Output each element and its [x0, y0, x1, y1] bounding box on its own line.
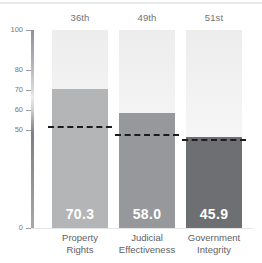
category-label-property-rights-line2: Rights: [43, 244, 117, 256]
y-tick-0: 0: [0, 223, 31, 233]
category-label-judicial-effectiveness: Judicial Effectiveness: [110, 232, 184, 255]
bar-value-property-rights: 70.3: [52, 206, 108, 222]
category-label-judicial-effectiveness-line2: Effectiveness: [110, 244, 184, 256]
average-line-government-integrity: [182, 139, 246, 141]
bar-value-judicial-effectiveness: 58.0: [119, 206, 175, 222]
y-tick-label-70: 70: [15, 85, 23, 95]
bar-government-integrity[interactable]: 45.9: [186, 137, 242, 228]
y-tick-70: 70: [0, 85, 31, 95]
y-tick-mark-0: [26, 228, 31, 229]
bar-judicial-effectiveness[interactable]: 58.0: [119, 113, 175, 228]
category-label-government-integrity: Government Integrity: [177, 232, 251, 255]
y-tick-60: 60: [0, 105, 31, 115]
category-label-judicial-effectiveness-line1: Judicial: [110, 232, 184, 244]
bar-property-rights[interactable]: 70.3: [52, 89, 108, 228]
category-label-property-rights: Property Rights: [43, 232, 117, 255]
y-tick-label-0: 0: [19, 223, 23, 233]
y-tick-label-100: 100: [10, 25, 23, 35]
y-tick-mark-60: [26, 110, 31, 111]
plot-area: 70.3 58.0 45.9 100 80 70 60: [0, 0, 262, 263]
y-tick-80: 80: [0, 65, 31, 75]
y-tick-label-80: 80: [15, 65, 23, 75]
y-axis-gradient-spine: [31, 30, 34, 229]
y-tick-50: 50: [0, 125, 31, 135]
category-label-property-rights-line1: Property: [43, 232, 117, 244]
y-tick-mark-80: [26, 70, 31, 71]
bar-chart: 36th 49th 51st 70.3 58.0 45.9 100 80: [0, 0, 262, 263]
category-label-government-integrity-line1: Government: [177, 232, 251, 244]
y-tick-mark-70: [26, 90, 31, 91]
average-line-property-rights: [48, 126, 112, 128]
x-axis-baseline: [31, 228, 253, 229]
y-tick-100: 100: [0, 25, 31, 35]
category-label-government-integrity-line2: Integrity: [177, 244, 251, 256]
bar-value-government-integrity: 45.9: [186, 206, 242, 222]
y-tick-label-50: 50: [15, 125, 23, 135]
y-tick-mark-100: [26, 30, 31, 31]
y-tick-mark-50: [26, 130, 31, 131]
y-tick-label-60: 60: [15, 105, 23, 115]
average-line-judicial-effectiveness: [115, 134, 179, 136]
